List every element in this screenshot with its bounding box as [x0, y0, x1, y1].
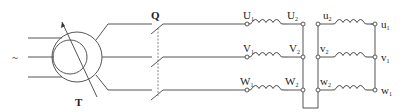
three-pole-switch: [151, 24, 246, 100]
terminal-label-V2: V2: [289, 42, 300, 55]
terminal-label-W1: W1: [240, 75, 253, 88]
terminal-label-U2: U2: [287, 9, 298, 22]
variable-transformer-icon: [52, 22, 102, 97]
connection-bus: [303, 26, 318, 108]
circuit-diagram: ~ T Q: [0, 0, 404, 112]
transformer-output-lines: [96, 24, 152, 90]
terminal-label-v1: v1: [381, 51, 390, 64]
switch-label: Q: [151, 9, 160, 21]
transformer-label: T: [75, 96, 83, 108]
terminal-label-w2: w2: [320, 75, 331, 88]
terminal-label-u2: u2: [323, 9, 332, 22]
ac-source-symbol: ~: [12, 51, 18, 63]
terminal-label-W2: W2: [285, 75, 298, 88]
primary-coils: [249, 20, 288, 91]
terminal-label-U1: U1: [243, 9, 254, 22]
terminal-label-v2: v2: [320, 42, 329, 55]
terminal-label-V1: V1: [243, 42, 254, 55]
secondary-coils: [333, 20, 373, 91]
terminal-label-w1: w1: [381, 84, 392, 97]
terminal-label-u1: u1: [381, 18, 390, 31]
